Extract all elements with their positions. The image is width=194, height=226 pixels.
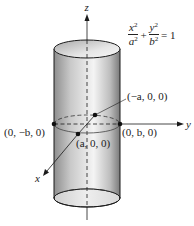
label-neg-b: (0, −b, 0) xyxy=(4,126,45,139)
point-pos-a xyxy=(76,132,81,137)
label-pos-b: (0, b, 0) xyxy=(122,126,157,139)
fraction-y-over-b: y2 b2 xyxy=(149,22,159,47)
point-neg-b xyxy=(52,122,57,127)
z-axis-arrow-icon xyxy=(85,14,90,21)
equals-one: = 1 xyxy=(161,29,175,41)
plus-sign: + xyxy=(140,29,146,41)
cylinder-equation: x2 a2 + y2 b2 = 1 xyxy=(128,22,175,47)
y-axis-label: y xyxy=(185,118,191,130)
label-neg-a: (−a, 0, 0) xyxy=(127,90,168,103)
point-neg-a xyxy=(93,113,98,118)
z-axis-label: z xyxy=(84,1,90,13)
x-axis-label: x xyxy=(34,172,40,184)
y-axis-arrow-icon xyxy=(177,122,184,127)
label-pos-a: (a, 0, 0) xyxy=(76,137,111,150)
fraction-x-over-a: x2 a2 xyxy=(128,22,138,47)
